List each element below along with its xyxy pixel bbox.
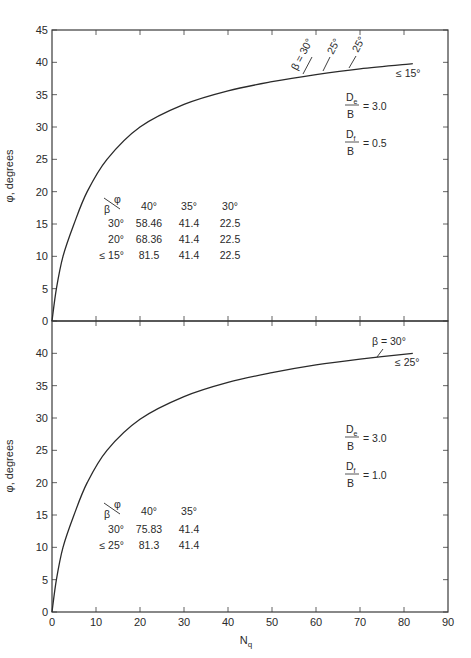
table-cell: 22.5: [220, 249, 241, 261]
top-table: φ β 40° 35° 30° 30° 58.46 41.4 22.5 20° …: [99, 193, 240, 261]
label-25a-top: 25°: [324, 36, 342, 56]
table-row-beta: ≤ 25°: [99, 539, 124, 551]
df-fraction-num: Df: [346, 460, 356, 474]
table-cell: 41.4: [179, 539, 200, 551]
table-col-header: 30°: [222, 200, 238, 212]
label-beta-30-top: β = 30°: [288, 36, 315, 72]
x-axis-title-sub: q: [248, 640, 252, 649]
table-corner-beta: β: [104, 203, 110, 215]
df-value-bottom: = 1.0: [363, 469, 387, 481]
y-tick-label: 15: [36, 509, 48, 521]
x-axis-title: Nq: [240, 634, 252, 649]
bottom-curve-labels: β = 30° ≤ 25°: [372, 335, 420, 368]
y-axis-title-bottom: φ, degrees: [3, 439, 15, 492]
table-cell: 41.4: [179, 249, 200, 261]
table-row-beta: ≤ 15°: [99, 249, 124, 261]
x-tick-label: 20: [134, 616, 146, 628]
y-axis-title-top: φ, degrees: [3, 149, 15, 202]
plot-frame-bottom: [52, 321, 448, 612]
table-col-header: 40°: [141, 200, 157, 212]
y-tick-label: 45: [36, 24, 48, 36]
y-tick-label: 30: [36, 121, 48, 133]
table-cell: 75.83: [136, 523, 162, 535]
table-cell: 68.36: [136, 233, 162, 245]
de-fraction-num: De: [346, 423, 358, 437]
y-tick-label: 40: [36, 56, 48, 68]
y-tick-label: 10: [36, 541, 48, 553]
x-tick-label: 50: [266, 616, 278, 628]
table-cell: 22.5: [220, 217, 241, 229]
y-tick-label: 40: [36, 347, 48, 359]
table-row-beta: 30°: [108, 217, 124, 229]
table-cell: 41.4: [179, 233, 200, 245]
y-tick-label: 5: [42, 574, 48, 586]
x-tick-label: 70: [354, 616, 366, 628]
label-25b-top: 25°: [349, 34, 367, 54]
y-tick-label: 0: [42, 315, 48, 327]
y-tick-label: 35: [36, 380, 48, 392]
table-cell: 58.46: [136, 217, 162, 229]
y-tick-label: 35: [36, 89, 48, 101]
x-tick-label: 0: [49, 616, 55, 628]
table-row-beta: 20°: [108, 233, 124, 245]
y-tick-label: 15: [36, 218, 48, 230]
table-col-header: 40°: [141, 505, 157, 517]
table-row-beta: 30°: [108, 523, 124, 535]
y-tick-label: 20: [36, 186, 48, 198]
y-tick-label: 10: [36, 250, 48, 262]
de-fraction-den: B: [347, 108, 354, 120]
label-le15-top: ≤ 15°: [396, 67, 421, 79]
x-tick-label: 90: [442, 616, 454, 628]
table-col-header: 35°: [181, 505, 197, 517]
table-col-header: 35°: [181, 200, 197, 212]
table-cell: 41.4: [179, 523, 200, 535]
curve-top: [52, 64, 413, 321]
data-curves: [52, 64, 413, 612]
y-tick-label: 25: [36, 153, 48, 165]
de-value-bottom: = 3.0: [363, 432, 387, 444]
df-fraction-num: Df: [346, 128, 356, 142]
x-tick-label: 40: [222, 616, 234, 628]
df-fraction-den: B: [347, 477, 354, 489]
table-cell: 81.5: [139, 249, 160, 261]
bottom-table: φ β 40° 35° 30° 75.83 41.4 ≤ 25° 81.3 41…: [99, 498, 199, 551]
y-tick-label: 5: [42, 283, 48, 295]
df-fraction-den: B: [347, 145, 354, 157]
y-tick-label: 0: [42, 606, 48, 618]
x-tick-label: 80: [398, 616, 410, 628]
table-corner-beta: β: [104, 508, 110, 520]
de-fraction-num: De: [346, 91, 358, 105]
table-cell: 81.3: [139, 539, 160, 551]
table-cell: 41.4: [179, 217, 200, 229]
y-tick-label: 20: [36, 477, 48, 489]
y-tick-label: 25: [36, 444, 48, 456]
label-le25-bottom: ≤ 25°: [395, 356, 420, 368]
top-curve-labels: β = 30° 25° 25° ≤ 15°: [288, 34, 420, 79]
x-axis-title-main: N: [240, 634, 248, 646]
table-cell: 22.5: [220, 233, 241, 245]
chart-figure: 0510152025303540450510152025303540010203…: [0, 0, 471, 658]
bottom-parameters: De B = 3.0 Df B = 1.0: [345, 423, 387, 489]
x-tick-label: 60: [310, 616, 322, 628]
table-corner-phi: φ: [114, 498, 121, 510]
x-tick-label: 30: [178, 616, 190, 628]
de-fraction-den: B: [347, 440, 354, 452]
label-beta-30-bottom: β = 30°: [372, 335, 406, 347]
df-value-top: = 0.5: [363, 137, 387, 149]
de-value-top: = 3.0: [363, 100, 387, 112]
curve-bottom: [52, 353, 413, 612]
x-tick-label: 10: [90, 616, 102, 628]
plot-frame-top: [52, 30, 448, 321]
axis-ticks: 0510152025303540450510152025303540010203…: [36, 24, 454, 628]
top-parameters: De B = 3.0 Df B = 0.5: [345, 91, 387, 157]
table-corner-phi: φ: [114, 193, 121, 205]
y-tick-label: 30: [36, 412, 48, 424]
